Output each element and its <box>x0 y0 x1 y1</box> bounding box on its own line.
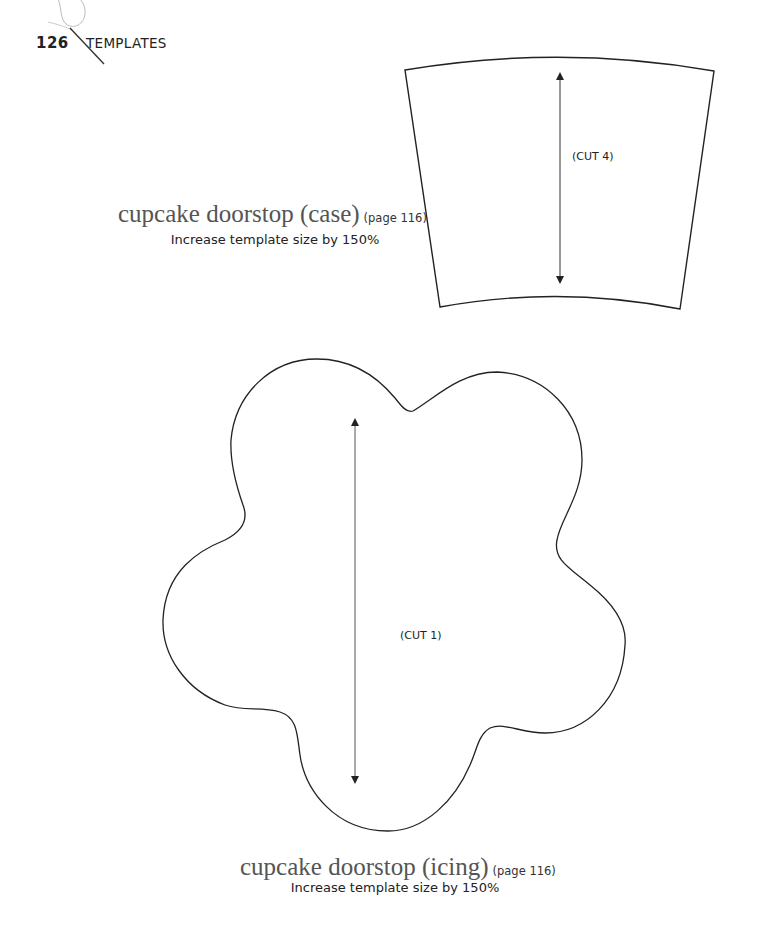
template-drawings <box>0 0 757 948</box>
section-heading: TEMPLATES <box>86 35 167 51</box>
case-template-outline <box>405 57 714 309</box>
icing-template-outline <box>163 359 625 831</box>
icing-instruction: Increase template size by 150% <box>240 880 550 895</box>
page-number: 126 <box>36 34 69 52</box>
icing-template-title: cupcake doorstop (icing)(page 116) <box>240 853 556 881</box>
cut-label-icing: (CUT 1) <box>400 629 442 642</box>
icing-page-ref: (page 116) <box>493 864 556 878</box>
icing-title-text: cupcake doorstop (icing) <box>240 853 489 880</box>
cut-label-case: (CUT 4) <box>572 150 614 163</box>
needle-thread-icon <box>48 0 104 64</box>
case-page-ref: (page 116) <box>364 211 427 225</box>
case-instruction: Increase template size by 150% <box>140 232 410 247</box>
case-title-text: cupcake doorstop (case) <box>118 200 360 227</box>
case-template-title: cupcake doorstop (case)(page 116) <box>118 200 427 228</box>
